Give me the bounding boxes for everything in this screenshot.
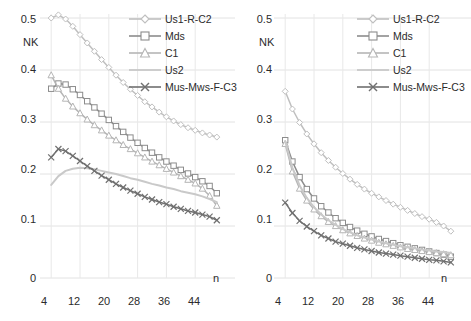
y-tick-right-5: 0 (244, 272, 272, 284)
x-tick-left-4: 36 (158, 295, 170, 307)
x-tick-right-3: 28 (362, 295, 374, 307)
y-tick-right-0: 0.5 (244, 13, 272, 25)
x-tick-left-2: 20 (98, 295, 110, 307)
x-tick-right-2: 20 (332, 295, 344, 307)
legend-item-us2[interactable]: Us2 (356, 61, 460, 78)
two-panel-line-chart-figure: NK n 0.5 0.4 0.3 0.2 0.1 0 4 12 20 28 36… (0, 0, 471, 321)
legend-left: Us1-R-C2 Mds C1 Us2 Mus-Mws-F-C3 (128, 10, 232, 95)
triangle-marker-icon (128, 46, 162, 60)
legend-item-us1-r-c2[interactable]: Us1-R-C2 (128, 10, 232, 27)
y-axis-label-right: NK (259, 36, 274, 48)
legend-label: C1 (165, 46, 178, 60)
diamond-marker-icon (356, 12, 390, 26)
legend-label: Us1-R-C2 (393, 12, 440, 26)
x-tick-left-0: 4 (41, 295, 47, 307)
x-tick-left-5: 44 (188, 295, 200, 307)
legend-item-c1[interactable]: C1 (128, 44, 232, 61)
y-tick-left-1: 0.4 (8, 63, 36, 75)
y-tick-left-4: 0.1 (8, 213, 36, 225)
legend-label: Mus-Mws-F-C3 (165, 80, 237, 94)
square-marker-icon (356, 29, 390, 43)
y-tick-right-1: 0.4 (244, 63, 272, 75)
y-tick-left-5: 0 (8, 272, 36, 284)
x-tick-right-4: 36 (392, 295, 404, 307)
y-axis-label-left: NK (23, 36, 38, 48)
legend-label: Mds (165, 29, 185, 43)
chart-panel-left: NK n 0.5 0.4 0.3 0.2 0.1 0 4 12 20 28 36… (0, 0, 235, 321)
x-tick-left-1: 12 (68, 295, 80, 307)
cross-marker-icon (128, 80, 162, 94)
x-tick-right-0: 4 (275, 295, 281, 307)
legend-label: Us1-R-C2 (165, 12, 212, 26)
plain-line-marker-icon (356, 63, 390, 77)
chart-panel-right: NK n 0.5 0.4 0.3 0.2 0.1 0 4 12 20 28 36… (236, 0, 471, 321)
legend-item-us1-r-c2[interactable]: Us1-R-C2 (356, 10, 460, 27)
legend-label: C1 (393, 46, 406, 60)
legend-label: Mus-Mws-F-C3 (393, 80, 465, 94)
x-tick-right-1: 12 (302, 295, 314, 307)
diamond-marker-icon (128, 12, 162, 26)
x-tick-left-3: 28 (128, 295, 140, 307)
plain-line-marker-icon (128, 63, 162, 77)
cross-marker-icon (356, 80, 390, 94)
legend-item-us2[interactable]: Us2 (128, 61, 232, 78)
y-tick-left-0: 0.5 (8, 13, 36, 25)
y-tick-left-3: 0.2 (8, 163, 36, 175)
x-axis-label-right: n (441, 272, 447, 284)
x-tick-right-5: 44 (422, 295, 434, 307)
triangle-marker-icon (356, 46, 390, 60)
legend-right: Us1-R-C2 Mds C1 Us2 Mus-Mws-F-C3 (356, 10, 460, 95)
y-tick-right-3: 0.2 (244, 163, 272, 175)
legend-item-mds[interactable]: Mds (356, 27, 460, 44)
legend-item-mus-mws-f-c3[interactable]: Mus-Mws-F-C3 (356, 78, 460, 95)
y-tick-left-2: 0.3 (8, 113, 36, 125)
legend-item-c1[interactable]: C1 (356, 44, 460, 61)
square-marker-icon (128, 29, 162, 43)
y-tick-right-4: 0.1 (244, 213, 272, 225)
x-axis-label-left: n (213, 272, 219, 284)
legend-label: Us2 (165, 63, 184, 77)
legend-item-mds[interactable]: Mds (128, 27, 232, 44)
legend-label: Us2 (393, 63, 412, 77)
legend-label: Mds (393, 29, 413, 43)
legend-item-mus-mws-f-c3[interactable]: Mus-Mws-F-C3 (128, 78, 232, 95)
y-tick-right-2: 0.3 (244, 113, 272, 125)
